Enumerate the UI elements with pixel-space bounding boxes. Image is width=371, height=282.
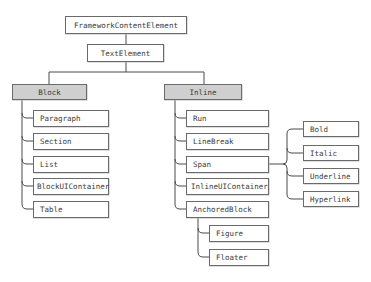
- node-anchored-block: AnchoredBlock: [186, 201, 269, 218]
- node-run: Run: [186, 110, 269, 127]
- node-italic: Italic: [303, 145, 359, 161]
- node-underline: Underline: [303, 168, 359, 184]
- class-hierarchy-diagram: FrameworkContentElement TextElement Bloc…: [0, 0, 371, 282]
- node-floater: Floater: [209, 249, 269, 266]
- node-inline-ui-container: InlineUIContainer: [186, 178, 269, 195]
- node-text-element: TextElement: [87, 44, 164, 62]
- node-table: Table: [33, 201, 109, 218]
- node-figure: Figure: [209, 225, 269, 242]
- node-framework-content-element: FrameworkContentElement: [65, 16, 187, 34]
- node-paragraph: Paragraph: [33, 110, 109, 127]
- node-bold: Bold: [303, 121, 359, 137]
- node-inline: Inline: [164, 84, 242, 100]
- node-hyperlink: Hyperlink: [303, 191, 359, 207]
- node-span: Span: [186, 156, 269, 173]
- node-list: List: [33, 156, 109, 173]
- node-section: Section: [33, 133, 109, 150]
- node-line-break: LineBreak: [186, 133, 269, 150]
- node-block: Block: [12, 84, 87, 100]
- node-block-ui-container: BlockUIContainer: [33, 178, 109, 195]
